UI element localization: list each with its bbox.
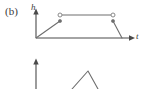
panel-d-y-axis xyxy=(33,59,38,90)
panel-d: (d) h xyxy=(0,50,146,89)
marker-filled-left xyxy=(58,19,61,22)
panel-b-data-curve xyxy=(36,15,122,38)
marker-filled-right xyxy=(111,19,114,22)
panel-b-plot xyxy=(0,0,146,50)
panel-b: (b) h t xyxy=(0,0,146,50)
marker-open-right xyxy=(111,13,115,17)
marker-open-left xyxy=(58,13,62,17)
panel-b-x-axis xyxy=(36,35,135,40)
panel-b-y-axis xyxy=(33,9,38,39)
panel-d-data-curve xyxy=(72,71,98,89)
panel-d-plot xyxy=(0,50,146,89)
panel-b-markers xyxy=(58,13,115,23)
